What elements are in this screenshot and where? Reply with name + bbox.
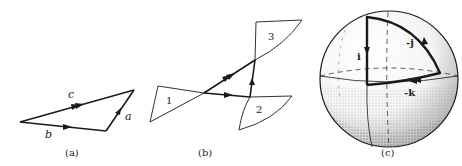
label-minus-j: -j xyxy=(406,38,414,48)
label-b: b xyxy=(45,129,52,140)
caption-c: (c) xyxy=(381,148,394,158)
label-triangle-1: 1 xyxy=(166,96,172,106)
panel-a-triangle xyxy=(20,90,134,131)
caption-a: (a) xyxy=(65,148,79,158)
panel-a-arrowheads xyxy=(63,103,121,130)
label-triangle-3: 3 xyxy=(268,32,274,42)
label-i: i xyxy=(357,52,361,62)
triangle-3 xyxy=(255,20,302,60)
triangle-1 xyxy=(150,86,204,122)
arrow-second-icon xyxy=(249,78,255,85)
arrow-a-icon xyxy=(115,108,121,115)
label-minus-k: -k xyxy=(404,88,415,98)
figure-canvas xyxy=(0,0,462,166)
vector-second xyxy=(250,60,255,97)
arrow-b-icon xyxy=(63,124,72,130)
arrow-first-icon xyxy=(224,92,233,98)
triangle-2 xyxy=(239,96,292,130)
panel-c-sphere xyxy=(320,11,458,150)
label-c: c xyxy=(68,89,74,100)
label-triangle-2: 2 xyxy=(256,105,262,115)
label-a: a xyxy=(125,111,132,122)
caption-b: (b) xyxy=(198,148,212,158)
